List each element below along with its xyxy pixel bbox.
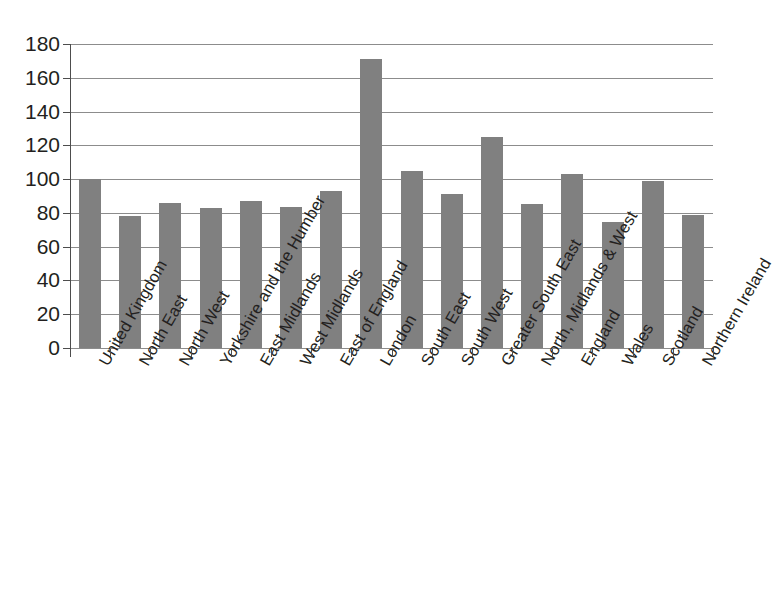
page-title	[14, 0, 634, 5]
y-axis-tick	[63, 112, 71, 113]
y-axis-tick	[63, 280, 71, 281]
y-axis-tick	[63, 213, 71, 214]
y-axis-tick-label: 160	[2, 67, 60, 88]
x-axis-tick	[633, 349, 634, 357]
x-axis-tick	[673, 349, 674, 357]
x-axis-tick	[512, 349, 513, 357]
x-axis-tick	[150, 349, 151, 357]
x-axis-tick	[191, 349, 192, 357]
x-axis-tick	[70, 349, 71, 357]
x-axis-tick	[392, 349, 393, 357]
gridline	[70, 145, 713, 146]
y-axis-tick-label: 180	[2, 33, 60, 54]
x-axis-tick	[592, 349, 593, 357]
x-axis-tick	[432, 349, 433, 357]
y-axis-tick-label: 120	[2, 134, 60, 155]
y-axis-tick-label: 60	[2, 236, 60, 257]
x-axis-tick	[311, 349, 312, 357]
x-axis-tick	[552, 349, 553, 357]
x-axis-tick	[231, 349, 232, 357]
y-axis: 020406080100120140160180	[0, 0, 60, 608]
y-axis-tick	[63, 44, 71, 45]
y-axis-tick	[63, 314, 71, 315]
y-axis-tick-label: 100	[2, 168, 60, 189]
x-axis-tick	[110, 349, 111, 357]
plot-area	[70, 44, 713, 348]
y-axis-tick-label: 20	[2, 303, 60, 324]
gridline	[70, 44, 713, 45]
x-axis-tick	[472, 349, 473, 357]
y-axis-tick-label: 80	[2, 202, 60, 223]
y-axis-tick	[63, 145, 71, 146]
gridline	[70, 112, 713, 113]
bar	[79, 179, 101, 348]
y-axis-tick-label: 40	[2, 269, 60, 290]
gridline	[70, 78, 713, 79]
y-axis-tick-label: 0	[2, 337, 60, 358]
x-axis-tick	[351, 349, 352, 357]
x-axis-tick	[713, 349, 714, 357]
y-axis-tick	[63, 78, 71, 79]
y-axis-tick	[63, 247, 71, 248]
gridline	[70, 179, 713, 180]
y-axis-tick	[63, 179, 71, 180]
y-axis-tick-label: 140	[2, 101, 60, 122]
x-axis-tick	[271, 349, 272, 357]
